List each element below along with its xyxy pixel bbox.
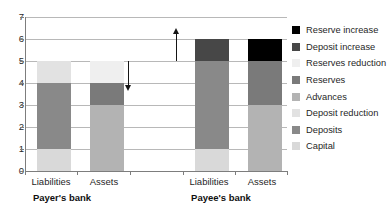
y-tick-mark-3 bbox=[20, 105, 24, 106]
legend-item-capital[interactable]: Capital bbox=[292, 138, 390, 155]
x-tick-0 bbox=[25, 171, 26, 175]
bar-segment-reserves bbox=[90, 83, 124, 105]
stacked-bar-chart: 01234567 Liabilities Assets Liabilities … bbox=[0, 0, 390, 212]
legend-item-deposit-increase[interactable]: Deposit increase bbox=[292, 39, 390, 56]
legend-swatch-icon bbox=[292, 76, 300, 84]
legend-item-deposit-reduction[interactable]: Deposit reduction bbox=[292, 105, 390, 122]
legend-swatch-icon bbox=[292, 109, 300, 117]
y-tick-mark-7 bbox=[20, 17, 24, 18]
bar-segment-advances bbox=[90, 105, 124, 171]
x-tick-4 bbox=[235, 171, 236, 175]
bar-1-assets bbox=[90, 17, 124, 171]
x-tick-2 bbox=[130, 171, 131, 175]
y-tick-mark-4 bbox=[20, 83, 24, 84]
y-tick-mark-5 bbox=[20, 61, 24, 62]
legend-swatch-icon bbox=[292, 59, 300, 67]
legend-label: Deposit increase bbox=[306, 42, 375, 52]
legend-label: Advances bbox=[306, 92, 347, 102]
bar-segment-deposits bbox=[37, 83, 71, 149]
bar-segment-advances bbox=[248, 105, 282, 171]
legend-item-advances[interactable]: Advances bbox=[292, 88, 390, 105]
group-label-payer: Payer's bank bbox=[0, 192, 137, 203]
bar-segment-reserves-reduction bbox=[90, 61, 124, 83]
x-tick-5 bbox=[287, 171, 288, 175]
legend-swatch-icon bbox=[292, 43, 300, 51]
bar-segment-reserve-increase bbox=[248, 39, 282, 61]
x-label-payer-assets: Assets bbox=[64, 176, 144, 187]
y-tick-mark-6 bbox=[20, 39, 24, 40]
y-tick-mark-2 bbox=[20, 127, 24, 128]
legend-item-reserves-reduction[interactable]: Reserves reduction bbox=[292, 55, 390, 72]
x-tick-1 bbox=[77, 171, 78, 175]
bar-segment-deposit-reduction bbox=[37, 61, 71, 83]
y-tick-mark-0 bbox=[20, 171, 24, 172]
bar-segment-deposit-increase bbox=[195, 39, 229, 61]
legend-swatch-icon bbox=[292, 26, 300, 34]
legend-item-deposits[interactable]: Deposits bbox=[292, 122, 390, 139]
x-axis-line bbox=[25, 171, 288, 172]
x-tick-3 bbox=[183, 171, 184, 175]
bar-segment-capital bbox=[195, 149, 229, 171]
y-tick-mark-1 bbox=[20, 149, 24, 150]
chart-legend: Reserve increaseDeposit increaseReserves… bbox=[292, 22, 390, 155]
legend-swatch-icon bbox=[292, 126, 300, 134]
legend-label: Reserves bbox=[306, 75, 345, 85]
legend-swatch-icon bbox=[292, 142, 300, 150]
bar-3-assets bbox=[248, 17, 282, 171]
bar-segment-capital bbox=[37, 149, 71, 171]
legend-label: Deposits bbox=[306, 125, 342, 135]
legend-item-reserve-increase[interactable]: Reserve increase bbox=[292, 22, 390, 39]
legend-item-reserves[interactable]: Reserves bbox=[292, 72, 390, 89]
x-label-payee-assets: Assets bbox=[222, 176, 302, 187]
bar-segment-deposits bbox=[195, 61, 229, 149]
legend-label: Reserve increase bbox=[306, 25, 378, 35]
legend-label: Deposit reduction bbox=[306, 108, 378, 118]
bar-segment-reserves bbox=[248, 61, 282, 105]
group-label-payee: Payee's bank bbox=[146, 192, 296, 203]
legend-label: Reserves reduction bbox=[306, 58, 386, 68]
legend-label: Capital bbox=[306, 141, 335, 151]
bar-2-liabilities bbox=[195, 17, 229, 171]
y-axis-labels: 01234567 bbox=[0, 17, 24, 172]
y-axis-line bbox=[25, 17, 26, 172]
bar-0-liabilities bbox=[37, 17, 71, 171]
legend-swatch-icon bbox=[292, 93, 300, 101]
